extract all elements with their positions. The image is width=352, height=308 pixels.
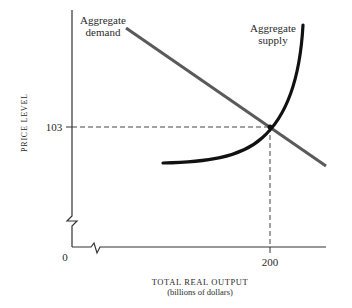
aggregate-supply-label: Aggregate supply (248, 22, 298, 46)
x-tick-label: 200 (258, 256, 282, 268)
x-axis-subtitle: (billions of dollars) (140, 286, 260, 298)
origin-label: 0 (60, 251, 70, 263)
y-tick-label: 103 (44, 121, 64, 133)
ad-label-line2: demand (78, 26, 128, 38)
y-axis-title: PRICE LEVEL (20, 93, 29, 152)
chart-canvas (0, 0, 352, 308)
y-axis (67, 10, 77, 247)
ad-label-line1: Aggregate (78, 14, 128, 26)
aggregate-demand-label: Aggregate demand (78, 14, 128, 38)
x-axis (72, 243, 326, 253)
equilibrium-point (268, 125, 273, 130)
aggregate-demand-line (126, 28, 326, 166)
as-label-line2: supply (248, 34, 298, 46)
as-label-line1: Aggregate (248, 22, 298, 34)
